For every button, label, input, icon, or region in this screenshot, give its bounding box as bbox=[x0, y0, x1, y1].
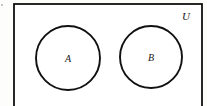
set-a-label: A bbox=[64, 53, 72, 64]
set-b-label: B bbox=[148, 52, 154, 63]
venn-diagram-figure: U A B bbox=[0, 0, 207, 106]
universal-set-label: U bbox=[182, 10, 191, 22]
venn-diagram-canvas: U A B bbox=[0, 0, 207, 106]
scan-speck-artifact bbox=[1, 4, 3, 6]
